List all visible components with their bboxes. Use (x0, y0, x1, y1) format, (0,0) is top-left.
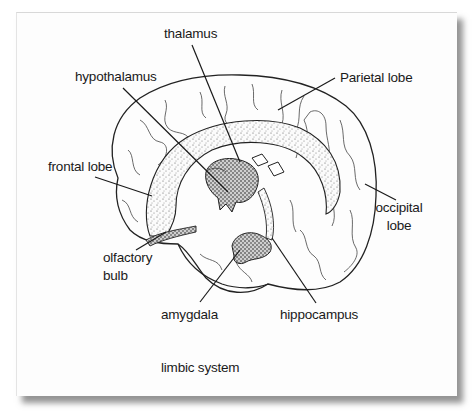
label-occipital-line2: lobe (374, 218, 424, 233)
label-olfactory-bulb: olfactory bulb (103, 250, 152, 283)
label-hypothalamus: hypothalamus (75, 69, 157, 84)
occipital-leader (365, 184, 396, 200)
label-parietal-lobe: Parietal lobe (340, 70, 412, 85)
hippocampus-leader (272, 238, 316, 303)
hypothalamus-leader (123, 88, 228, 192)
figure-caption: limbic system (161, 360, 239, 375)
label-olfactory-line1: olfactory (103, 250, 152, 265)
label-amygdala: amygdala (161, 307, 218, 322)
label-occipital-lobe: occipital lobe (374, 200, 424, 233)
label-olfactory-line2: bulb (103, 268, 152, 283)
amygdala-leader (200, 250, 240, 302)
frontal-leader (95, 177, 152, 196)
olfactory-leader (136, 232, 166, 250)
parietal-leader (278, 78, 335, 110)
label-thalamus: thalamus (164, 26, 217, 41)
label-hippocampus: hippocampus (280, 307, 358, 322)
thalamus-leader (192, 45, 240, 162)
label-occipital-line1: occipital (374, 200, 424, 215)
label-frontal-lobe: frontal lobe (48, 159, 112, 174)
